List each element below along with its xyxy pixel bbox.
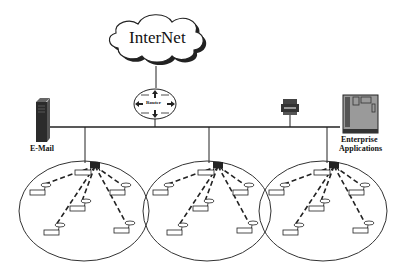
wireless-hub-icon bbox=[213, 162, 223, 171]
station-node-icon bbox=[237, 221, 258, 233]
printer-icon bbox=[281, 99, 299, 115]
email-server-icon bbox=[36, 98, 50, 142]
station-node-icon bbox=[70, 199, 91, 211]
station-node-icon bbox=[167, 223, 188, 235]
station-node-icon bbox=[353, 221, 374, 233]
enterprise-server-icon bbox=[343, 95, 378, 133]
station-node-icon bbox=[233, 183, 254, 195]
station-node-icon bbox=[193, 199, 214, 211]
station-node-icon bbox=[309, 199, 330, 211]
router-label: Router bbox=[146, 100, 161, 105]
station-node-icon bbox=[30, 183, 51, 195]
station-node-icon bbox=[44, 223, 65, 235]
wireless-hub-icon bbox=[90, 162, 100, 171]
email-label: E-Mail bbox=[30, 144, 54, 153]
station-node-icon bbox=[349, 183, 370, 195]
station-node-icon bbox=[153, 183, 174, 195]
station-node-icon bbox=[110, 183, 131, 195]
station-node-icon bbox=[114, 221, 135, 233]
wireless-hub-icon bbox=[329, 162, 339, 171]
station-node-icon bbox=[269, 183, 290, 195]
enterprise-label-1: Enterprise bbox=[341, 135, 377, 144]
enterprise-label-2: Applications bbox=[339, 144, 382, 153]
internet-label: InterNet bbox=[129, 28, 186, 48]
station-node-icon bbox=[283, 223, 304, 235]
